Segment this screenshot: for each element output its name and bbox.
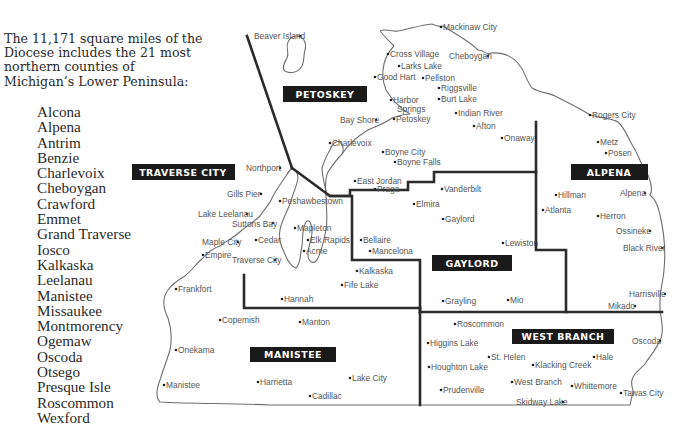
town-label: Beaver Island: [254, 31, 306, 41]
town-label: Boyne Falls: [397, 157, 441, 167]
town-label: Lewiston: [505, 238, 538, 248]
svg-text:GAYLORD: GAYLORD: [446, 258, 499, 269]
region-label-gaylord: GAYLORD: [432, 255, 512, 271]
svg-text:PETOSKEY: PETOSKEY: [296, 89, 355, 100]
town-label: Alpena: [620, 188, 646, 198]
town-label: Lake City: [352, 373, 388, 383]
town-label: Elk Rapids: [310, 235, 350, 245]
town-label: Bellaire: [363, 235, 391, 245]
town-label: Mackinaw City: [443, 22, 498, 32]
town-label: Manistee: [166, 380, 200, 390]
town-label: Vanderbilt: [444, 184, 482, 194]
town-label: Tawas City: [623, 388, 664, 398]
town-label: Rogers City: [592, 110, 637, 120]
town-label: Burt Lake: [441, 94, 477, 104]
town-label: Cadillac: [312, 391, 342, 401]
town-label: Grayling: [445, 296, 477, 306]
town-label: West Branch: [514, 377, 562, 387]
town-label: Ossineke: [616, 226, 651, 236]
town-label: Houghton Lake: [431, 362, 488, 372]
town-label: Mio: [510, 295, 524, 305]
town-label: Oscoda: [632, 336, 661, 346]
town-label: Mapleton: [297, 223, 332, 233]
town-label: Cedar: [258, 235, 281, 245]
town-label: Frankfort: [178, 284, 212, 294]
region-label-west-branch: WEST BRANCH: [512, 329, 614, 344]
town-label: Higgins Lake: [430, 338, 479, 348]
town-label: Gaylord: [445, 214, 475, 224]
town-label: Skidway Lake: [516, 397, 568, 407]
svg-text:WEST BRANCH: WEST BRANCH: [522, 331, 605, 342]
town-label: Gills Pier: [227, 189, 261, 199]
town-label: Whittemore: [574, 381, 617, 391]
town-label: Posen: [608, 148, 632, 158]
town-label: Mancelona: [372, 246, 413, 256]
town-label: Mikado: [608, 301, 635, 311]
town-label: Bay Shore: [340, 115, 379, 125]
towns: Beaver Island Mackinaw City Cross Villag…: [163, 22, 667, 407]
region-label-petoskey: PETOSKEY: [283, 86, 367, 102]
svg-text:ALPENA: ALPENA: [587, 167, 632, 178]
town-label: Good Hart: [377, 72, 416, 82]
town-label: Manton: [302, 317, 330, 327]
town-label: Cheboygan: [449, 51, 492, 61]
diocese-map: PETOSKEY TRAVERSE CITY ALPENA GAYLORD MA…: [0, 0, 697, 429]
town-label: Praga: [377, 184, 400, 194]
town-label: Hale: [596, 352, 614, 362]
town-label: Fife Lake: [344, 280, 379, 290]
border-traverse-manistee: [244, 275, 420, 308]
town-label: Acme: [306, 246, 328, 256]
town-label: Harrisville: [629, 289, 666, 299]
town-label: Riggsville: [441, 83, 477, 93]
town-label: Onekama: [178, 345, 215, 355]
town-label: Hillman: [558, 190, 586, 200]
region-label-alpena: ALPENA: [571, 164, 648, 180]
town-label: Peshawbestown: [282, 196, 343, 206]
town-label: Pellston: [425, 73, 455, 83]
town-label: Metz: [600, 137, 618, 147]
town-label: Maple City: [202, 237, 242, 247]
town-label: Traverse City: [232, 255, 282, 265]
town-label: Klacking Creek: [535, 360, 592, 370]
town-label: Onaway: [504, 133, 536, 143]
town-label: Boyne City: [385, 147, 426, 157]
svg-text:TRAVERSE CITY: TRAVERSE CITY: [139, 167, 227, 178]
town-label: Herron: [600, 211, 626, 221]
town-label: Larks Lake: [401, 61, 442, 71]
town-label: Springs: [397, 104, 425, 114]
town-label: Indian River: [458, 108, 503, 118]
town-label: Atlanta: [545, 205, 571, 215]
town-label: Northport: [246, 163, 282, 173]
town-label: Afton: [476, 121, 496, 131]
beaver-island-outline: [283, 36, 305, 73]
town-label: Prudenville: [443, 385, 485, 395]
town-label: Cross Village: [390, 49, 440, 59]
town-label: Lake Leelanau: [198, 209, 253, 219]
town-label: Roscommon: [457, 319, 504, 329]
town-label: Suttons Bay: [232, 219, 278, 229]
town-label: St. Helen: [491, 352, 526, 362]
town-label: Black River: [623, 243, 666, 253]
town-label: Kalkaska: [359, 266, 393, 276]
region-label-traverse-city: TRAVERSE CITY: [132, 164, 235, 180]
town-label: Petoskey: [396, 114, 431, 124]
town-label: Copemish: [222, 315, 260, 325]
town-label: Empire: [205, 250, 232, 260]
town-label: Harrietta: [260, 377, 292, 387]
region-label-manistee: MANISTEE: [250, 347, 336, 362]
town-label: Hannah: [284, 294, 314, 304]
town-label: Elmira: [416, 199, 440, 209]
town-label: Charlevoix: [332, 138, 372, 148]
svg-text:MANISTEE: MANISTEE: [264, 349, 322, 360]
